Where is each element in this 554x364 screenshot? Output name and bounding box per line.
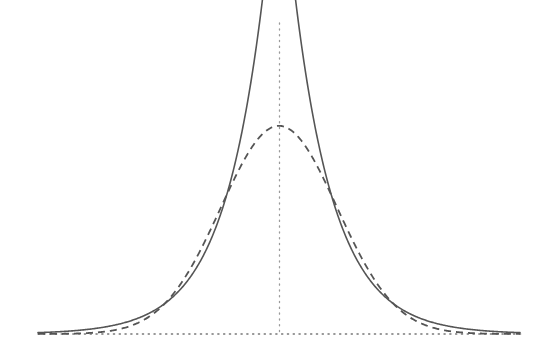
axes-group bbox=[38, 23, 523, 334]
laplace-density-curve bbox=[38, 0, 520, 333]
figure-canvas bbox=[0, 0, 554, 364]
density-comparison-chart bbox=[0, 0, 554, 364]
